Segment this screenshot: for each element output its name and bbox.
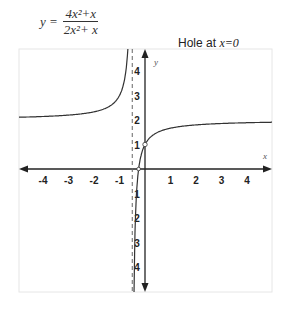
x-tick-label: -4 <box>39 175 48 186</box>
x-tick-label: 2 <box>193 175 199 186</box>
x-tick-label: -3 <box>64 175 73 186</box>
y-axis-label: y <box>153 57 158 67</box>
y-tick-label: 2 <box>134 115 140 126</box>
x-tick-label: 3 <box>219 175 225 186</box>
graph: xy-4-3-2-1123412341234 <box>0 0 283 311</box>
curve-left-branch <box>18 29 131 117</box>
y-axis-up-arrow-icon <box>142 49 149 58</box>
curve-right-branch <box>134 122 273 311</box>
x-tick-label: -2 <box>90 175 99 186</box>
y-axis-down-arrow-icon <box>142 283 149 292</box>
x-axis-right-arrow-icon <box>263 166 272 173</box>
x-axis-label: x <box>262 151 267 161</box>
y-tick-label: 4 <box>134 262 140 273</box>
hole-marker <box>143 142 147 146</box>
y-tick-label: 1 <box>134 140 140 151</box>
y-tick-label: 4 <box>134 66 140 77</box>
x-tick-label: 4 <box>244 175 250 186</box>
x-intercept-marker <box>137 167 141 171</box>
x-axis-left-arrow-icon <box>19 166 28 173</box>
x-tick-label: -1 <box>115 175 124 186</box>
y-tick-label: 3 <box>134 91 140 102</box>
x-tick-label: 1 <box>168 175 174 186</box>
